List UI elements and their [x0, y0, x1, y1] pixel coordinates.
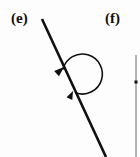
figure-container: (e) (f) — [0, 0, 140, 157]
vertical-line-marker — [135, 81, 138, 84]
arc-arrowhead — [54, 67, 64, 76]
diagram-canvas — [0, 0, 140, 157]
line-direction-arrowhead — [67, 91, 73, 100]
